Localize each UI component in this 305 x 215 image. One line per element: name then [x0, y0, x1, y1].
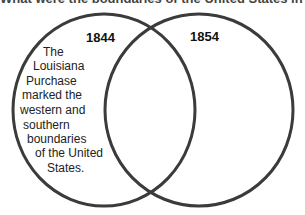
- label-1844: 1844: [86, 30, 115, 45]
- left-text-line: western and: [20, 103, 85, 117]
- left-text-line: marked the: [22, 88, 82, 102]
- left-text-line: States.: [47, 161, 84, 175]
- left-text-line: Louisiana: [33, 59, 84, 73]
- label-1854: 1854: [190, 29, 219, 44]
- left-text-line: of the United: [35, 146, 103, 160]
- left-text-line: The: [43, 45, 64, 59]
- left-text-line: boundaries: [27, 132, 86, 146]
- left-text-line: southern: [23, 118, 70, 132]
- left-text-line: Purchase: [26, 74, 77, 88]
